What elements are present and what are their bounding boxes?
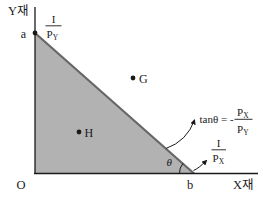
x-intercept-denominator-sub: X [219,157,225,166]
slope-formula-denominator: PY [237,123,249,137]
slope-formula: tanθ = - PX PY [200,106,253,137]
y-axis-label: Y재 [8,4,29,18]
slope-numerator-sub: X [243,111,249,120]
slope-formula-numerator: PX [237,106,249,120]
origin-label: O [17,178,26,192]
budget-line-diagram: Y재 X재 O a b G H I PY I PX θ tanθ = - PX … [0,0,263,200]
point-g-label: G [139,72,148,86]
point-b-label: b [187,178,193,192]
slope-formula-arrow [166,120,195,149]
y-intercept-denominator-sub: Y [53,33,59,42]
point-a-label: a [21,27,27,41]
point-g-dot [131,76,136,81]
point-h-dot [77,130,82,135]
point-h-label: H [85,126,94,140]
angle-theta-label: θ [167,156,173,168]
x-axis-label: X재 [233,178,254,192]
y-intercept-fraction: I PY [46,13,62,42]
point-a-dot [33,31,38,36]
x-intercept-denominator: PX [213,152,225,166]
y-intercept-denominator: PY [47,28,59,42]
x-intercept-numerator: I [217,137,221,149]
slope-denominator-sub: Y [243,128,249,137]
x-intercept-fraction: I PX [212,137,227,166]
slope-formula-lhs: tanθ = - [200,113,234,125]
y-intercept-numerator: I [52,13,56,25]
diagram-canvas: Y재 X재 O a b G H I PY I PX θ tanθ = - PX … [0,0,263,200]
x-intercept-arrow [194,161,207,171]
